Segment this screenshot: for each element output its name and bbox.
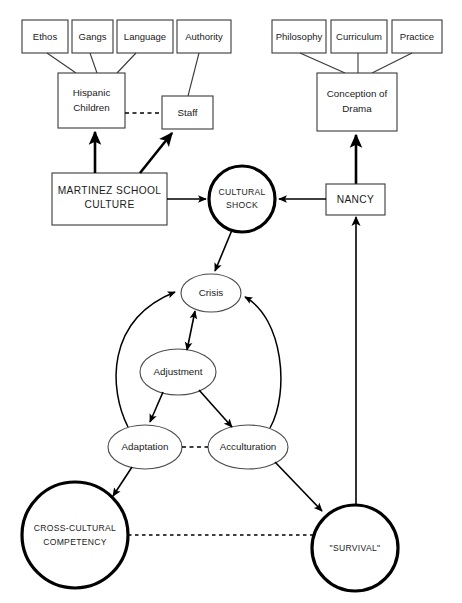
node-curriculum[interactable]: Curriculum	[331, 20, 387, 53]
cross-cultural-competency-label-line1: CROSS-CULTURAL	[34, 523, 116, 533]
martinez-label-line1: MARTINEZ SCHOOL	[58, 185, 162, 196]
hispanic-children-label-line2: Children	[73, 102, 110, 113]
node-adjustment[interactable]: Adjustment	[140, 349, 216, 395]
ethos-label: Ethos	[33, 31, 58, 42]
cross-cultural-competency-label-line2: COMPETENCY	[43, 537, 107, 547]
node-martinez-school-culture[interactable]: MARTINEZ SCHOOL CULTURE	[52, 173, 167, 225]
node-philosophy[interactable]: Philosophy	[272, 20, 326, 53]
cross-cultural-competency-circle[interactable]	[22, 482, 128, 588]
language-label: Language	[124, 31, 166, 42]
edge-philosophy-conception	[300, 53, 345, 73]
diagram-canvas: Ethos Gangs Language Authority Hispanic …	[0, 0, 462, 603]
survival-label: "SURVIVAL"	[330, 543, 381, 553]
conception-of-drama-label-line1: Conception of	[327, 88, 388, 99]
edge-adjustment-acculturation-arrow	[199, 390, 232, 427]
edge-acculturation-crisis-curve	[245, 297, 281, 428]
practice-label: Practice	[400, 31, 434, 42]
node-hispanic-children[interactable]: Hispanic Children	[58, 73, 125, 128]
node-nancy[interactable]: NANCY	[326, 184, 385, 215]
node-ethos[interactable]: Ethos	[22, 20, 68, 53]
edge-ethos-hispanic	[47, 53, 76, 73]
adjustment-label: Adjustment	[153, 366, 202, 377]
curriculum-label: Curriculum	[336, 31, 382, 42]
edge-adjustment-adaptation-arrow	[150, 392, 163, 422]
cultural-shock-circle[interactable]	[209, 166, 275, 232]
edge-martinez-staff-arrow	[140, 133, 172, 173]
node-authority[interactable]: Authority	[177, 20, 231, 53]
edge-gangs-hispanic	[90, 53, 97, 73]
nancy-label: NANCY	[337, 194, 375, 205]
node-gangs[interactable]: Gangs	[72, 20, 113, 53]
edge-language-hispanic	[117, 53, 136, 73]
node-crisis[interactable]: Crisis	[181, 274, 241, 312]
authority-label: Authority	[185, 31, 223, 42]
gangs-label: Gangs	[79, 31, 107, 42]
cultural-shock-label-line2: SHOCK	[226, 200, 258, 210]
cultural-shock-label-line1: CULTURAL	[218, 187, 265, 197]
node-practice[interactable]: Practice	[392, 20, 442, 53]
edge-authority-staff	[188, 53, 199, 96]
edge-crisis-adjustment-double-arrow	[187, 311, 195, 350]
node-conception-of-drama[interactable]: Conception of Drama	[317, 73, 397, 131]
edge-practice-conception	[372, 53, 412, 73]
node-adaptation[interactable]: Adaptation	[108, 425, 182, 469]
acculturation-label: Acculturation	[220, 441, 277, 452]
node-staff[interactable]: Staff	[162, 96, 213, 129]
node-cross-cultural-competency[interactable]: CROSS-CULTURAL COMPETENCY	[22, 482, 128, 588]
edge-acculturation-survival-arrow	[275, 462, 322, 511]
philosophy-label: Philosophy	[276, 31, 323, 42]
diagram-svg: Ethos Gangs Language Authority Hispanic …	[0, 0, 462, 603]
edge-adaptation-competency-arrow	[113, 467, 132, 496]
node-language[interactable]: Language	[117, 20, 173, 53]
hispanic-children-box[interactable]	[58, 73, 125, 128]
node-survival[interactable]: "SURVIVAL"	[312, 505, 398, 591]
crisis-label: Crisis	[199, 287, 224, 298]
adaptation-label: Adaptation	[122, 441, 169, 452]
martinez-label-line2: CULTURE	[84, 199, 134, 210]
conception-of-drama-label-line2: Drama	[342, 103, 372, 114]
node-cultural-shock[interactable]: CULTURAL SHOCK	[209, 166, 275, 232]
staff-label: Staff	[178, 107, 198, 118]
edge-cultural-shock-crisis-arrow	[215, 230, 232, 271]
hispanic-children-label-line1: Hispanic	[73, 87, 111, 98]
